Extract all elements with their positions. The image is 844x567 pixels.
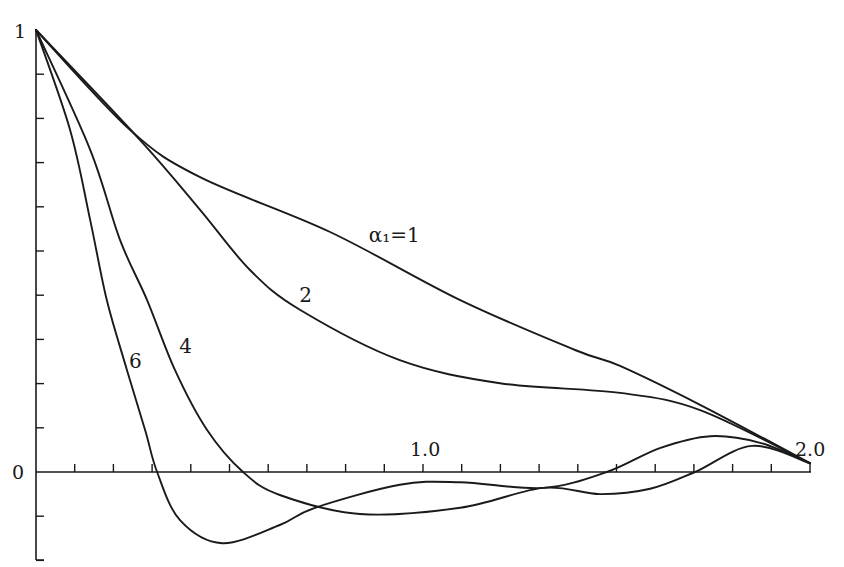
curve--1-1 xyxy=(36,30,810,463)
axes xyxy=(36,30,811,560)
y-tick-label-1: 1 xyxy=(14,20,26,42)
x-tick-label-1-0: 1.0 xyxy=(410,438,440,460)
chart: 1 0 1.0 2.0 α₁=1246 xyxy=(0,0,844,567)
curve-label: α₁=1 xyxy=(369,223,420,247)
curve-label: 4 xyxy=(179,334,192,358)
y-ticks xyxy=(36,74,44,560)
y-tick-label-0: 0 xyxy=(12,461,24,483)
curve-label: 6 xyxy=(129,349,142,373)
curve--1-2 xyxy=(36,30,810,463)
curve-label: 2 xyxy=(299,283,312,307)
